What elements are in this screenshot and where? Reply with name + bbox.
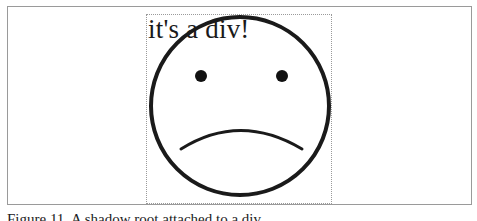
div-label-text: it's a div!: [148, 14, 250, 44]
figure-caption: Figure 11. A shadow root attached to a d…: [7, 210, 264, 221]
